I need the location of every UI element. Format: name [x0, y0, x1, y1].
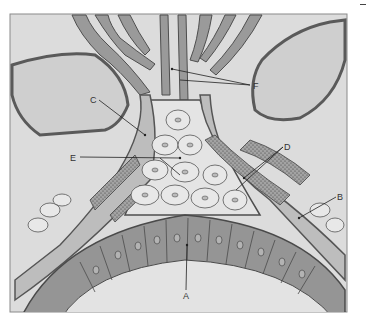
label-E: E [70, 153, 76, 163]
left-alveolus [12, 54, 128, 135]
label-C: C [90, 95, 97, 105]
label-D: D [284, 142, 291, 152]
label-A: A [183, 291, 189, 301]
label-B: B [337, 192, 343, 202]
label-F: F [253, 81, 259, 91]
tissue-diagram: A B C D E F [0, 0, 369, 332]
